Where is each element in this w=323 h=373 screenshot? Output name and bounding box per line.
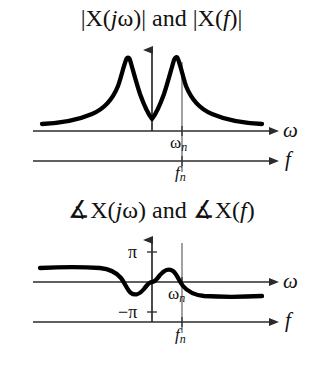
- phase-panel-graphics: [0, 0, 323, 373]
- phase-frequency-axis-label: f: [285, 308, 291, 333]
- phase-omega-n-subscript: n: [179, 291, 185, 305]
- phase-omega-axis-label: ω: [283, 269, 298, 294]
- phase-omega-n-symbol: ω: [168, 284, 179, 303]
- phase-f-n-subscript: n: [180, 332, 186, 346]
- phase-omega-n-tick-label: ωn: [168, 284, 185, 306]
- phase-pi-tick-label: π: [128, 242, 137, 263]
- phase-negative-pi-tick-label: −π: [118, 302, 137, 323]
- phase-f-n-tick-label: fn: [175, 325, 186, 347]
- spectrum-figure: |X(jω)| and |X(f)| ω f ωn fn ∡X(jω) and: [0, 0, 323, 373]
